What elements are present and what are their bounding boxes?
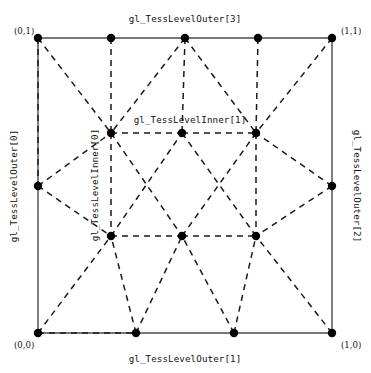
vertex-point	[178, 232, 186, 240]
corner-label-bottom-right: (1,0)	[341, 340, 361, 350]
tessellation-diagram-canvas: gl_TessLevelOuter[3] gl_TessLevelOuter[1…	[0, 0, 371, 373]
triangulation-edge	[182, 236, 234, 333]
vertex-point	[132, 329, 140, 337]
triangulation-edge	[38, 133, 111, 186]
label-outer-right: gl_TessLevelOuter[2]	[352, 130, 363, 243]
vertex-point	[254, 34, 262, 42]
label-inner-horizontal: gl_TessLevelInner[1]	[134, 114, 247, 125]
vertex-point	[107, 232, 115, 240]
vertex-point	[181, 34, 189, 42]
vertex-points	[34, 34, 336, 337]
triangulation-edge	[256, 133, 332, 186]
vertex-point	[178, 129, 186, 137]
vertex-point	[107, 129, 115, 137]
vertex-point	[230, 329, 238, 337]
vertex-point	[328, 34, 336, 42]
triangulation-edges	[38, 38, 332, 333]
triangulation-edge	[111, 133, 182, 236]
triangulation-edge	[182, 133, 256, 236]
triangulation-edge	[182, 133, 256, 236]
label-outer-bottom: gl_TessLevelOuter[1]	[129, 353, 242, 364]
label-outer-top: gl_TessLevelOuter[3]	[129, 13, 242, 24]
triangulation-edge	[256, 38, 258, 133]
vertex-point	[252, 232, 260, 240]
triangulation-edge	[234, 236, 256, 333]
triangulation-edge	[256, 38, 332, 133]
vertex-point	[34, 182, 42, 190]
triangulation-edge	[111, 133, 182, 236]
triangulation-edge	[38, 236, 111, 333]
vertex-point	[34, 329, 42, 337]
corner-label-bottom-left: (0,0)	[14, 340, 34, 350]
triangulation-edge	[38, 186, 111, 236]
vertex-point	[328, 329, 336, 337]
label-inner-vertical: gl_TessLevelInner[0]	[89, 129, 100, 242]
vertex-point	[34, 34, 42, 42]
vertex-point	[328, 182, 336, 190]
label-outer-left: gl_TessLevelOuter[0]	[8, 130, 19, 243]
corner-label-top-left: (0,1)	[14, 26, 34, 36]
vertex-point	[252, 129, 260, 137]
corner-label-top-right: (1,1)	[341, 26, 361, 36]
triangulation-edge	[256, 236, 332, 333]
domain-outline	[38, 38, 332, 333]
vertex-point	[107, 34, 115, 42]
triangulation-edge	[38, 38, 111, 133]
tessellation-svg: gl_TessLevelOuter[3] gl_TessLevelOuter[1…	[0, 0, 371, 373]
triangulation-edge	[111, 236, 136, 333]
inner-ring-edges	[111, 133, 256, 236]
triangulation-edge	[136, 236, 182, 333]
triangulation-edge	[256, 186, 332, 236]
